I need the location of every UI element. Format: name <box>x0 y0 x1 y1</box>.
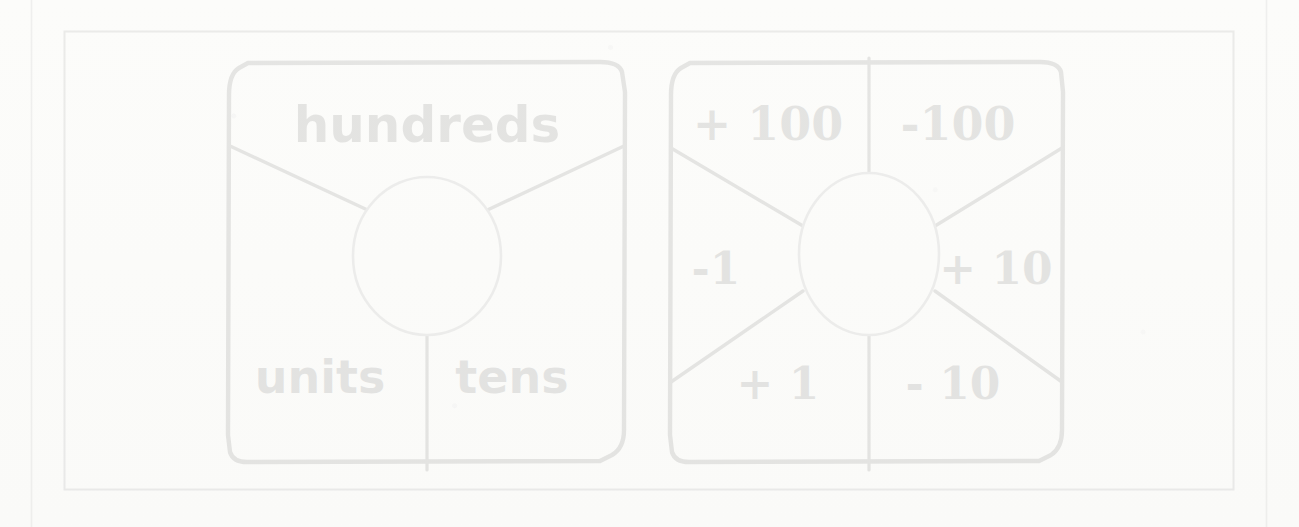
sector-label-plus-1: + 1 <box>737 358 820 409</box>
spinner-circle[interactable] <box>799 173 939 335</box>
sector-label-tens: tens <box>455 350 568 404</box>
sector-label-plus-10: + 10 <box>939 243 1052 294</box>
sector-label-units: units <box>255 350 386 404</box>
spinner-circle[interactable] <box>353 177 501 335</box>
sector-label-hundreds: hundreds <box>294 96 561 154</box>
page-background <box>0 0 1299 527</box>
worksheet-page: hundreds units tens + 100 -10 <box>0 0 1299 527</box>
worksheet-canvas: hundreds units tens + 100 -10 <box>0 0 1299 527</box>
sector-label-plus-100: + 100 <box>693 97 844 151</box>
place-value-card[interactable]: hundreds units tens <box>228 62 625 470</box>
operation-card[interactable]: + 100 -100 -1 + 10 + 1 - 10 <box>670 58 1063 470</box>
sector-label-minus-10: - 10 <box>906 358 1001 409</box>
sector-label-minus-1: -1 <box>692 243 741 294</box>
sector-label-minus-100: -100 <box>900 97 1015 151</box>
